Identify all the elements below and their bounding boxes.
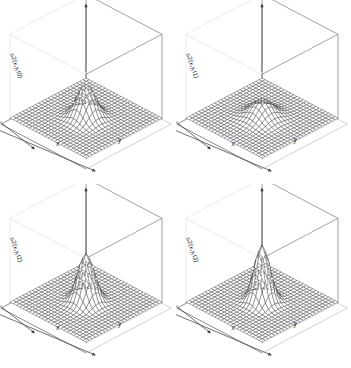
surface-canvas [0, 184, 175, 368]
surface-plot-figure: u2(x,y,t0)xyu2(x,y,t1)xyu2(x,y,t2)xyu2(x… [0, 0, 351, 368]
y-axis-label: y [294, 320, 297, 327]
mesh-surface [186, 245, 338, 342]
panel-t2: u2(x,y,t2)xy [0, 184, 175, 368]
x-axis-label: x [56, 140, 59, 147]
surface-canvas [176, 0, 351, 184]
mesh-surface [186, 78, 338, 158]
x-axis-label: x [232, 324, 235, 331]
mesh-surface [10, 78, 162, 158]
panel-t3: u2(x,y,t3)xy [176, 184, 351, 368]
y-axis-label: y [118, 136, 121, 143]
panel-t0: u2(x,y,t0)xy [0, 0, 175, 184]
x-axis-label: x [56, 324, 59, 331]
surface-canvas [0, 0, 175, 184]
surface-canvas [176, 184, 351, 368]
panel-t1: u2(x,y,t1)xy [176, 0, 351, 184]
y-axis-label: y [118, 320, 121, 327]
x-axis-label: x [232, 140, 235, 147]
y-axis-label: y [294, 136, 297, 143]
